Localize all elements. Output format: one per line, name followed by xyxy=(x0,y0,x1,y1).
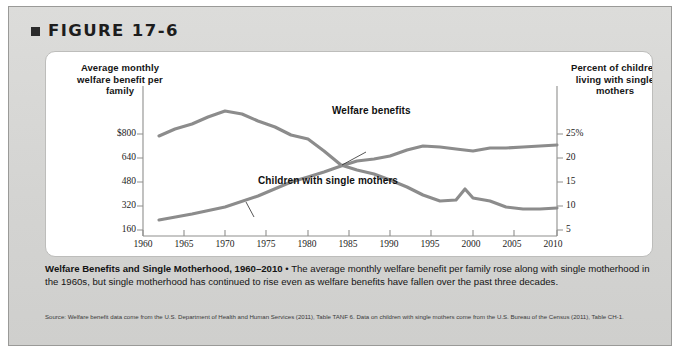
right-tick-marks xyxy=(557,134,563,230)
square-bullet-icon xyxy=(31,27,40,36)
leader-line-children xyxy=(246,202,254,217)
chart-card: Average monthly welfare benefit per fami… xyxy=(45,51,653,257)
figure-screenshot: FIGURE 17-6 Average monthly welfare bene… xyxy=(0,0,683,354)
caption-lead: Welfare Benefits and Single Motherhood, … xyxy=(45,263,283,274)
figure-caption: Welfare Benefits and Single Motherhood, … xyxy=(45,263,655,288)
figure-source: Source: Welfare benefit data come from t… xyxy=(45,313,657,321)
caption-separator: • xyxy=(283,263,292,274)
figure-header: FIGURE 17-6 xyxy=(31,21,179,40)
x-tick-marks xyxy=(143,230,557,236)
series-label-children-single-mothers: Children with single mothers xyxy=(258,175,398,186)
figure-panel: FIGURE 17-6 Average monthly welfare bene… xyxy=(8,6,672,346)
left-tick-marks xyxy=(137,134,143,230)
figure-label: FIGURE 17-6 xyxy=(48,21,179,40)
series-label-welfare-benefits: Welfare benefits xyxy=(332,105,411,116)
plot-area xyxy=(46,52,653,257)
